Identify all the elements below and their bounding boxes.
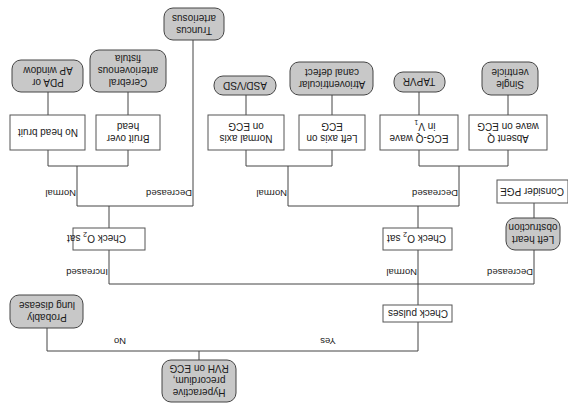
node-normal-axis-ecg: Normal axis on ECG xyxy=(208,115,284,150)
edge-label-yes: Yes xyxy=(320,336,336,347)
edge-label-decreased-center: Decreased xyxy=(412,188,458,199)
node-check-o2-sat-normal: Check O2 sat xyxy=(383,228,452,250)
node-text: ventricle xyxy=(491,67,529,78)
edge-label-normal-center: Normal xyxy=(256,188,287,199)
node-absent-q-wave: Absent Q wave on ECG xyxy=(469,115,547,150)
flowchart-rotated: Hyperactive precordium, RVH on ECG No Ye… xyxy=(0,0,568,410)
node-text: ECG xyxy=(321,121,343,132)
node-truncus-arteriosus: Truncus arteriosus xyxy=(164,8,224,40)
node-consider-pge: Consider PGE xyxy=(497,180,568,203)
node-text: head xyxy=(117,121,139,132)
node-text: precordium, xyxy=(173,375,226,386)
node-check-pulses: Check pulses xyxy=(383,305,452,322)
node-text: Bruit over xyxy=(106,133,149,144)
node-cerebral-av-fistula: Cerebral arteriovenous fistula xyxy=(90,50,166,92)
edge-label-normal: Normal xyxy=(386,267,417,278)
node-text: on ECG xyxy=(228,121,264,132)
node-text: Truncus xyxy=(176,25,212,36)
edge-label-no: No xyxy=(114,336,126,347)
node-left-heart-obstruction: Left heart obstruction xyxy=(506,218,560,250)
node-left-axis-ecg: Left axis on ECG xyxy=(299,115,365,150)
node-text: Check O2 sat xyxy=(387,231,446,244)
node-asd-vsd: ASD/VSD xyxy=(214,76,276,95)
edge-label-normal-left: Normal xyxy=(45,188,76,199)
node-text: arteriovenous xyxy=(98,65,159,76)
node-text: No head bruit xyxy=(18,127,78,138)
node-text: PDA or xyxy=(31,77,63,88)
node-text: TAPVR xyxy=(403,76,436,87)
node-av-canal-defect: Atrioventricular canal defect xyxy=(290,62,373,95)
node-text: ASD/VSD xyxy=(223,80,267,91)
node-ecg-q-wave-v1: ECG-Q wave in V1 xyxy=(380,115,458,150)
node-text: Single xyxy=(496,79,524,90)
node-text: wave on ECG xyxy=(477,121,540,132)
node-no-head-bruit: No head bruit xyxy=(10,115,85,150)
node-text: Consider PGE xyxy=(500,186,564,197)
node-text: lung disease xyxy=(18,300,75,311)
flowchart: Hyperactive precordium, RVH on ECG No Ye… xyxy=(0,0,568,410)
node-text: Cerebral xyxy=(109,77,147,88)
node-text: canal defect xyxy=(305,67,359,78)
node-text: ECG-Q wave xyxy=(389,133,448,144)
edge-label-decreased-left: Decreased xyxy=(146,188,192,199)
node-pda-ap-window: PDA or AP window xyxy=(12,60,83,92)
node-text: Normal axis xyxy=(220,133,273,144)
node-text: Left axis on xyxy=(306,133,357,144)
node-single-ventricle: Single ventricle xyxy=(482,62,538,95)
node-check-o2-sat-increased: Check O2 sat xyxy=(67,228,145,250)
node-text: arteriosus xyxy=(172,13,216,24)
node-text: AP window xyxy=(23,65,73,76)
node-text: fistula xyxy=(115,53,142,64)
node-text: Atrioventricular xyxy=(298,79,365,90)
edge-label-increased: Increased xyxy=(66,267,108,278)
node-text: Absent Q xyxy=(487,133,529,144)
node-text: obstruction xyxy=(509,222,558,233)
node-text: in V1 xyxy=(414,119,435,132)
node-hyperactive-precordium: Hyperactive precordium, RVH on ECG xyxy=(162,360,236,402)
node-tapvr: TAPVR xyxy=(394,72,445,92)
node-text: Hyperactive xyxy=(172,387,225,398)
node-probably-lung-disease: Probably lung disease xyxy=(10,295,83,328)
edge-label-decreased: Decreased xyxy=(487,267,533,278)
node-text: Left heart xyxy=(512,234,554,245)
node-text: Probably xyxy=(27,312,66,323)
node-bruit-over-head: Bruit over head xyxy=(96,115,160,150)
node-text: Check pulses xyxy=(388,308,448,319)
node-text: RVH on ECG xyxy=(169,363,229,374)
node-text: Check O2 sat xyxy=(67,231,126,244)
